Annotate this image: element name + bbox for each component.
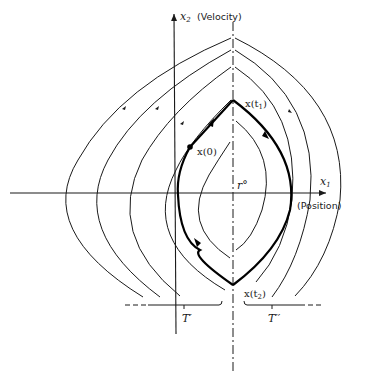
- x1-axis-caption: (Position): [297, 200, 341, 211]
- label-x-t2: x(t2): [244, 288, 266, 301]
- trajectory-left-3: [130, 67, 231, 296]
- initial-state-point: [187, 144, 193, 150]
- trajectory-left-2: [97, 50, 231, 297]
- arrow-right-1: [288, 109, 292, 113]
- x1-axis-label: x1: [320, 175, 331, 189]
- x2-axis-caption: (Velocity): [197, 11, 242, 22]
- arrow-left-3: [180, 121, 184, 125]
- phase-plane-diagram: x2 (Velocity) x1 (Position) x(0) x(t1) x…: [0, 0, 366, 377]
- trajectory-left-1: [66, 38, 231, 297]
- label-x-t1: x(t1): [245, 98, 267, 111]
- label-x0: x(0): [197, 146, 217, 157]
- x2-axis-label: x2: [180, 10, 191, 24]
- arrow-left-1: [122, 106, 126, 110]
- bracket-left-hook: [219, 301, 222, 305]
- label-t-prime: T′: [182, 312, 192, 325]
- trajectory-inner-left: [198, 142, 230, 258]
- label-target-r: r°: [237, 179, 248, 192]
- optimal-trajectory-lower-left: [178, 147, 233, 285]
- bracket-right-hook: [244, 301, 247, 305]
- arrow-left-2: [155, 106, 159, 110]
- trajectory-right-2: [235, 50, 311, 297]
- left-trajectories: [66, 38, 231, 297]
- label-t-double-prime: T′′: [268, 312, 281, 325]
